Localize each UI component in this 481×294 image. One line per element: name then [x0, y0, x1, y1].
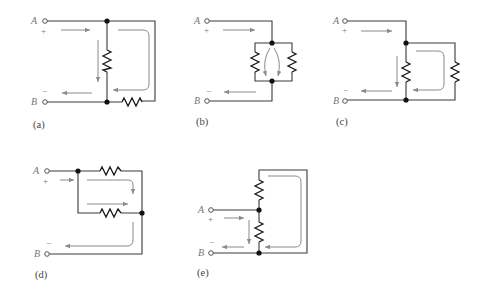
minus-sign: −: [206, 86, 211, 96]
caption-b: (b): [196, 116, 209, 128]
wire: [78, 171, 142, 213]
wire: [255, 43, 292, 81]
terminal-b: [43, 100, 48, 105]
panel-e: A + B − (e): [197, 170, 307, 279]
resistor: [122, 98, 142, 106]
terminal-b: [343, 99, 348, 104]
plus-sign: +: [43, 176, 48, 186]
resistor: [251, 52, 259, 72]
panel-c: A + B − (c): [332, 15, 459, 128]
node: [403, 97, 408, 102]
panel-b: A + B − (b): [193, 15, 296, 128]
current-arrow: [413, 51, 444, 90]
terminal-a: [45, 169, 50, 174]
terminal-a: [205, 19, 210, 24]
node: [104, 18, 109, 23]
terminal-a-label: A: [197, 204, 205, 215]
node: [75, 168, 80, 173]
wire: [47, 21, 155, 101]
minus-sign: −: [343, 85, 348, 95]
node: [256, 207, 261, 212]
resistor: [100, 167, 121, 175]
resistor: [288, 52, 296, 72]
plus-sign: +: [41, 26, 46, 36]
node: [104, 99, 109, 104]
node: [269, 40, 274, 45]
terminal-a-label: A: [193, 15, 201, 26]
current-arrow: [265, 48, 270, 76]
caption-a: (a): [33, 119, 45, 131]
current-arrow: [65, 222, 133, 246]
minus-sign: −: [209, 237, 214, 247]
terminal-a: [43, 19, 48, 24]
resistor: [100, 209, 121, 217]
terminal-b-label: B: [194, 95, 200, 106]
minus-sign: −: [46, 238, 51, 248]
resistor: [103, 50, 111, 72]
terminal-b-label: B: [333, 95, 339, 106]
terminal-b-label: B: [198, 247, 204, 258]
minus-sign: −: [42, 86, 47, 96]
terminal-b-label: B: [34, 248, 40, 259]
terminal-a-label: A: [332, 15, 340, 26]
terminal-a: [343, 19, 348, 24]
node: [403, 40, 408, 45]
terminal-b: [205, 99, 210, 104]
caption-c: (c): [336, 116, 348, 128]
resistor: [402, 62, 410, 82]
terminal-a: [209, 208, 214, 213]
terminal-b: [45, 252, 50, 257]
node: [139, 210, 144, 215]
wire: [209, 21, 272, 101]
resistor: [451, 62, 459, 82]
caption-d: (d): [35, 269, 48, 281]
terminal-a-label: A: [32, 165, 40, 176]
resistor: [255, 180, 263, 200]
terminal-b: [209, 251, 214, 256]
panel-a: A + B − (a): [30, 15, 155, 131]
terminal-a-label: A: [30, 15, 38, 26]
current-arrow: [87, 180, 133, 194]
plus-sign: +: [204, 25, 209, 35]
current-arrow: [113, 30, 149, 90]
terminal-b-label: B: [31, 96, 37, 107]
node: [256, 250, 261, 255]
resistor: [255, 222, 263, 242]
panel-d: A + B − (d): [32, 165, 145, 281]
current-arrow: [265, 176, 301, 247]
node: [269, 78, 274, 83]
wire: [347, 21, 455, 100]
caption-e: (e): [197, 267, 209, 279]
current-arrow: [274, 48, 279, 76]
plus-sign: +: [208, 214, 213, 224]
plus-sign: +: [342, 25, 347, 35]
circuit-figure: A + B − (a) A + B − (b): [0, 0, 481, 294]
